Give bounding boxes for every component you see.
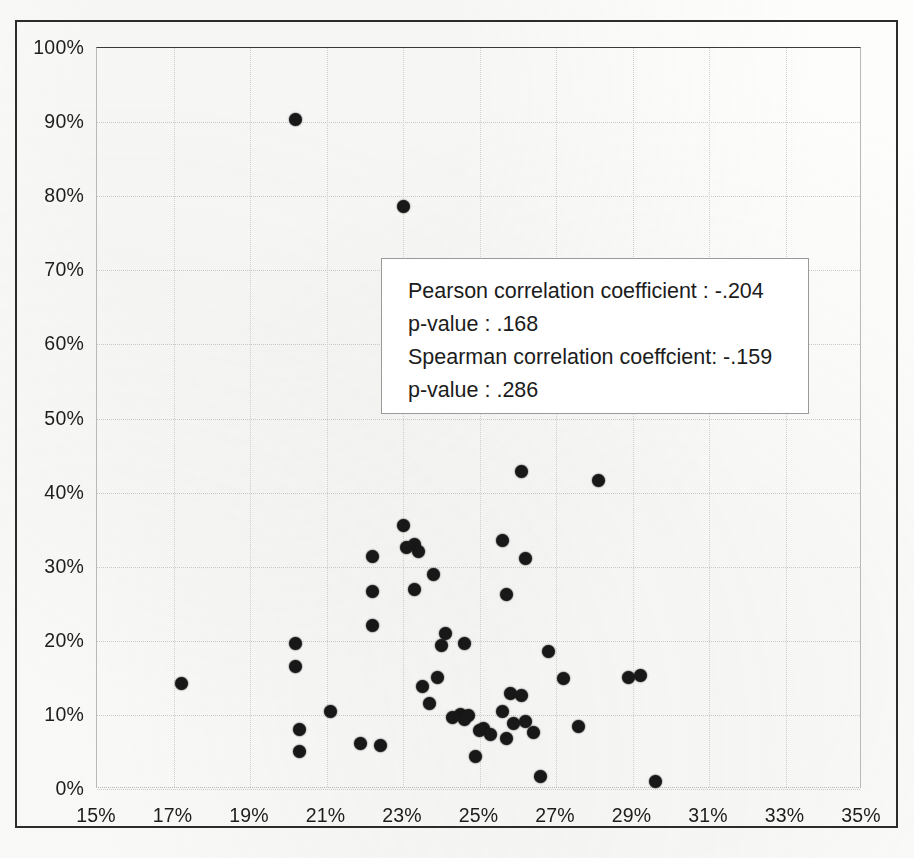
y-axis-tick-label: 30% xyxy=(0,554,84,577)
scatter-point xyxy=(366,585,379,598)
scatter-point xyxy=(496,534,509,547)
scatter-point xyxy=(427,568,440,581)
scatter-point xyxy=(289,660,302,673)
scatter-point xyxy=(515,465,528,478)
gridline-horizontal xyxy=(97,122,860,123)
scatter-point xyxy=(527,726,540,739)
annotation-line-pearson-r: Pearson correlation coefficient : -.204 xyxy=(408,275,808,308)
scatter-point xyxy=(634,669,647,682)
scatter-point xyxy=(175,677,188,690)
y-axis-tick-label: 60% xyxy=(0,332,84,355)
scatter-point xyxy=(484,728,497,741)
scatter-point xyxy=(354,737,367,750)
scatter-point xyxy=(542,645,555,658)
scatter-point xyxy=(366,619,379,632)
y-axis-tick-label: 90% xyxy=(0,110,84,133)
gridline-vertical xyxy=(250,48,251,787)
gridline-vertical xyxy=(403,48,404,787)
scatter-point xyxy=(324,705,337,718)
y-axis-tick-label: 20% xyxy=(0,628,84,651)
x-axis-tick-label: 19% xyxy=(229,804,269,827)
scatter-point xyxy=(572,720,585,733)
gridline-vertical xyxy=(174,48,175,787)
y-axis-tick-label: 70% xyxy=(0,258,84,281)
gridline-vertical xyxy=(709,48,710,787)
scatter-point xyxy=(446,711,459,724)
gridline-horizontal xyxy=(97,641,860,642)
gridline-horizontal xyxy=(97,419,860,420)
scatter-point xyxy=(534,770,547,783)
gridline-vertical xyxy=(480,48,481,787)
gridline-horizontal xyxy=(97,493,860,494)
scatter-point xyxy=(500,732,513,745)
scatter-point xyxy=(289,113,302,126)
scatter-point xyxy=(293,723,306,736)
scatter-point xyxy=(435,639,448,652)
scatter-point xyxy=(289,637,302,650)
gridline-vertical xyxy=(786,48,787,787)
scatter-point xyxy=(439,627,452,640)
scatter-point xyxy=(469,750,482,763)
y-axis-tick-label: 0% xyxy=(0,777,84,800)
scatter-point xyxy=(397,200,410,213)
scatter-point xyxy=(293,745,306,758)
scatter-point xyxy=(519,552,532,565)
scatter-point xyxy=(557,672,570,685)
scatter-point xyxy=(423,697,436,710)
scatter-point xyxy=(458,713,471,726)
scatter-point xyxy=(592,474,605,487)
gridline-horizontal xyxy=(97,789,860,790)
plot-area xyxy=(96,47,861,788)
x-axis-tick-label: 31% xyxy=(688,804,728,827)
x-axis-tick-label: 33% xyxy=(765,804,805,827)
statistics-annotation-box: Pearson correlation coefficient : -.204 … xyxy=(381,258,809,414)
scatter-point xyxy=(366,550,379,563)
x-axis-tick-label: 25% xyxy=(459,804,499,827)
gridline-vertical xyxy=(327,48,328,787)
x-axis-tick-label: 27% xyxy=(535,804,575,827)
scatter-point xyxy=(431,671,444,684)
scatter-point xyxy=(496,705,509,718)
x-axis-tick-label: 21% xyxy=(306,804,346,827)
y-axis-tick-label: 10% xyxy=(0,702,84,725)
scatter-point xyxy=(412,545,425,558)
scatter-point xyxy=(515,689,528,702)
scatter-point xyxy=(408,583,421,596)
x-axis-tick-label: 29% xyxy=(612,804,652,827)
x-axis-tick-label: 35% xyxy=(841,804,881,827)
annotation-line-pearson-p: p-value : .168 xyxy=(408,308,808,341)
y-axis-tick-label: 50% xyxy=(0,406,84,429)
x-axis-tick-label: 23% xyxy=(382,804,422,827)
scatter-point xyxy=(649,775,662,788)
scatter-point xyxy=(374,739,387,752)
gridline-horizontal xyxy=(97,567,860,568)
scatter-point xyxy=(458,637,471,650)
annotation-line-spearman-rho: Spearman correlation coeffcient: -.159 xyxy=(408,341,808,374)
y-axis-tick-label: 80% xyxy=(0,184,84,207)
scatter-point xyxy=(397,519,410,532)
scatter-point xyxy=(507,717,520,730)
gridline-horizontal xyxy=(97,715,860,716)
gridline-horizontal xyxy=(97,196,860,197)
annotation-line-spearman-p: p-value : .286 xyxy=(408,374,808,407)
x-axis-tick-label: 17% xyxy=(153,804,193,827)
y-axis-tick-label: 40% xyxy=(0,480,84,503)
scatter-point xyxy=(500,588,513,601)
x-axis-tick-label: 15% xyxy=(76,804,116,827)
y-axis-tick-label: 100% xyxy=(0,36,84,59)
figure-page: 0%10%20%30%40%50%60%70%80%90%100% 15%17%… xyxy=(0,0,914,858)
scatter-point xyxy=(416,680,429,693)
